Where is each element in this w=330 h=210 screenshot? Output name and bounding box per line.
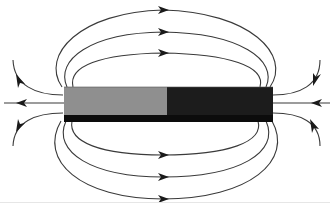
field-line-bottom-middle bbox=[63, 121, 269, 177]
field-line-top-middle bbox=[65, 32, 268, 87]
arrow-left-icon bbox=[16, 74, 25, 88]
field-line-top-outer bbox=[56, 10, 276, 87]
magnet-left-pole bbox=[64, 87, 167, 115]
top-field-loops bbox=[56, 6, 276, 87]
bar-magnet bbox=[64, 87, 273, 122]
field-line-bottom-outer bbox=[55, 121, 278, 199]
divider-line bbox=[0, 202, 330, 203]
left-field-lines bbox=[4, 60, 64, 146]
magnet-diagram bbox=[0, 0, 330, 210]
bottom-field-loops bbox=[55, 121, 278, 203]
arrow-left-icon bbox=[16, 119, 25, 132]
field-line-bottom-inner bbox=[72, 121, 259, 155]
arrow-left-icon bbox=[310, 119, 319, 133]
field-line-top-inner bbox=[72, 53, 260, 87]
magnet-right-pole bbox=[167, 87, 273, 115]
field-line-left-lower bbox=[13, 113, 63, 146]
right-field-lines bbox=[273, 60, 330, 146]
field-line-left-upper bbox=[13, 60, 63, 95]
magnet-shadow bbox=[64, 114, 273, 122]
field-line-right-upper bbox=[273, 60, 320, 95]
